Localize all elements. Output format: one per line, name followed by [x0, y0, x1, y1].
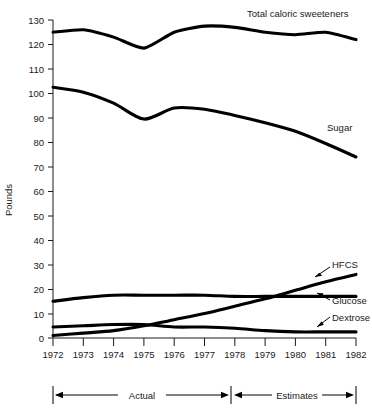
series-label-sugar: Sugar	[327, 122, 352, 133]
bracket-label-estimates: Estimates	[276, 390, 318, 401]
actual-arrow-left-icon	[55, 392, 63, 398]
x-tick-label: 1982	[345, 349, 366, 360]
series-paths	[53, 26, 356, 336]
x-tick-label: 1973	[73, 349, 94, 360]
y-tick-label: 40	[33, 235, 44, 246]
y-tick-label: 60	[33, 186, 44, 197]
period-bracket: Actual Estimates	[53, 386, 356, 404]
estimates-arrow-left-icon	[234, 392, 242, 398]
y-tick-label: 50	[33, 211, 44, 222]
actual-arrow-right-icon	[221, 392, 229, 398]
x-tick-label: 1975	[133, 349, 154, 360]
y-tick-label: 0	[39, 333, 44, 344]
x-tick-label: 1979	[255, 349, 276, 360]
x-tick-label: 1972	[42, 349, 63, 360]
x-tick-label: 1977	[194, 349, 215, 360]
series-line-total-caloric-sweeteners	[53, 26, 356, 48]
series-line-sugar	[53, 87, 356, 157]
x-tick-label: 1976	[164, 349, 185, 360]
y-axis-ticks: 130 120 110 100 90 80 70 60 50 40 30 20 …	[28, 15, 53, 344]
series-line-glucose	[53, 295, 356, 301]
x-tick-label: 1981	[315, 349, 336, 360]
series-label-hfcs: HFCS	[332, 259, 358, 270]
x-tick-label: 1974	[103, 349, 124, 360]
series-label-total-caloric-sweeteners: Total caloric sweeteners	[247, 8, 349, 19]
y-tick-label: 70	[33, 162, 44, 173]
y-axis-title: Pounds	[3, 184, 14, 216]
series-label-glucose: Glucose	[332, 295, 367, 306]
y-tick-label: 90	[33, 113, 44, 124]
y-tick-label: 110	[29, 64, 44, 75]
estimates-arrow-right-icon	[346, 392, 354, 398]
y-tick-label: 100	[28, 88, 44, 99]
sweetener-consumption-chart: Pounds 130 120 110 100 90 80 70 60 50 40…	[0, 0, 372, 418]
y-tick-label: 10	[33, 309, 44, 320]
y-tick-label: 130	[28, 15, 44, 26]
y-tick-label: 20	[33, 284, 44, 295]
bracket-label-actual: Actual	[129, 390, 155, 401]
x-axis-ticks: 1972 1973 1974 1975 1976 1977 1978 1979 …	[42, 338, 366, 360]
y-tick-label: 80	[33, 137, 44, 148]
y-tick-label: 30	[33, 260, 44, 271]
x-tick-label: 1980	[285, 349, 306, 360]
series-label-dextrose: Dextrose	[332, 312, 370, 323]
x-tick-label: 1978	[224, 349, 245, 360]
y-tick-label: 120	[28, 39, 44, 50]
